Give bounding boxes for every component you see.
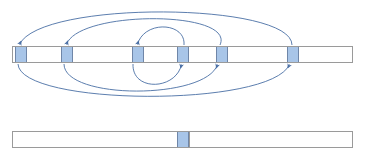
top-array-cell-5[interactable]: [216, 47, 228, 62]
arc-below-3: [133, 64, 182, 84]
bottom-array-divider: [189, 132, 190, 147]
top-array-cell-6[interactable]: [287, 47, 299, 62]
top-array-cell-2[interactable]: [61, 47, 73, 62]
diagram-canvas: [0, 0, 365, 163]
arc-above-3: [138, 27, 185, 45]
arc-below-1: [18, 64, 290, 96]
bottom-array-cell-1[interactable]: [177, 132, 189, 147]
arc-above-1: [20, 12, 293, 45]
bottom-array[interactable]: [12, 131, 353, 148]
top-array-cell-4[interactable]: [177, 47, 189, 62]
top-array[interactable]: [12, 46, 353, 63]
arc-below-2: [64, 64, 218, 91]
top-array-cell-3[interactable]: [132, 47, 144, 62]
top-array-cell-1[interactable]: [15, 47, 27, 62]
arc-above-2: [67, 19, 222, 45]
